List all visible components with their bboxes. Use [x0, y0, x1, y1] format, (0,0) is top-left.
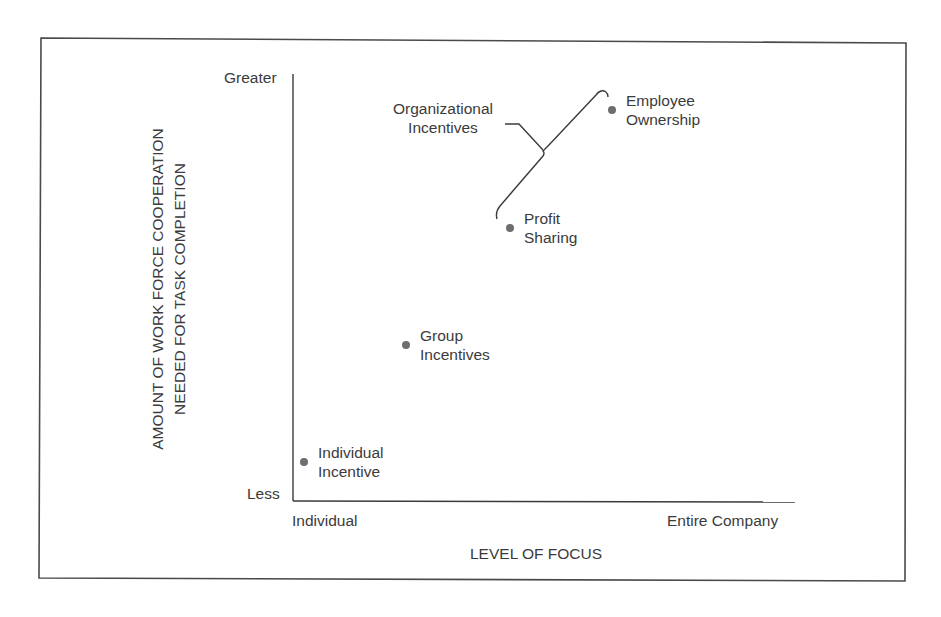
annotation-leader-line [505, 124, 543, 150]
label-individual-incentive: Individual Incentive [318, 443, 384, 481]
point-individual-incentive [300, 458, 308, 466]
x-min-label: Individual [292, 511, 358, 530]
label-line: Profit [524, 209, 577, 228]
x-axis [293, 501, 795, 502]
label-line: Individual [318, 443, 384, 462]
y-max-label: Greater [224, 68, 277, 87]
figure: Greater Less Individual Entire Company L… [0, 0, 941, 617]
x-axis-title: LEVEL OF FOCUS [470, 544, 602, 563]
x-max-label: Entire Company [667, 511, 778, 530]
label-line: Employee [626, 91, 700, 110]
label-line: Incentive [318, 462, 384, 481]
label-line: Incentives [420, 345, 490, 364]
y-axis-title: AMOUNT OF WORK FORCE COOPERATION NEEDED … [147, 128, 191, 450]
label-organizational-incentives: Organizational Incentives [393, 99, 493, 137]
chart-canvas [0, 0, 941, 617]
point-employee-ownership [608, 106, 616, 114]
point-group-incentives [402, 341, 410, 349]
y-min-label: Less [247, 484, 280, 503]
label-line: Group [420, 326, 490, 345]
y-axis-title-line-1: AMOUNT OF WORK FORCE COOPERATION [147, 128, 169, 450]
point-profit-sharing [506, 224, 514, 232]
label-employee-ownership: Employee Ownership [626, 91, 700, 129]
y-axis-title-line-2: NEEDED FOR TASK COMPLETION [169, 128, 191, 450]
label-line: Incentives [393, 118, 493, 137]
label-profit-sharing: Profit Sharing [524, 209, 577, 247]
label-line: Organizational [393, 99, 493, 118]
label-group-incentives: Group Incentives [420, 326, 490, 364]
brace-organizational-incentives [496, 91, 608, 219]
label-line: Sharing [524, 228, 577, 247]
label-line: Ownership [626, 110, 700, 129]
